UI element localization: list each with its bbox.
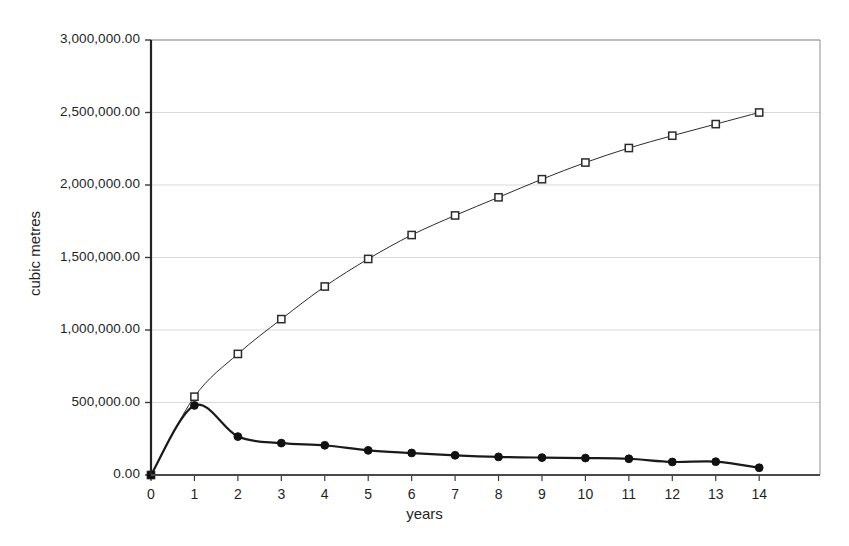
gridlines	[151, 40, 820, 403]
x-tick-label: 13	[696, 486, 736, 502]
x-tick-label: 10	[565, 486, 605, 502]
x-tick-label: 3	[261, 486, 301, 502]
x-tick-label: 11	[609, 486, 649, 502]
x-tick-label: 5	[348, 486, 388, 502]
x-tick-label: 8	[479, 486, 519, 502]
y-tick-label: 3,000,000.00	[60, 31, 140, 46]
x-tick-label: 12	[652, 486, 692, 502]
x-tick-label: 0	[131, 486, 171, 502]
x-tick-label: 4	[305, 486, 345, 502]
y-tick-label: 2,500,000.00	[60, 104, 140, 119]
data-series	[147, 109, 763, 479]
y-tick-label: 2,000,000.00	[60, 176, 140, 191]
x-tick-label: 9	[522, 486, 562, 502]
y-axis-title: cubic metres	[26, 174, 43, 334]
axis-ticks	[145, 40, 759, 481]
chart-canvas	[0, 0, 849, 546]
y-tick-label: 1,500,000.00	[60, 249, 140, 264]
y-tick-label: 500,000.00	[71, 394, 140, 409]
x-axis-title: years	[0, 505, 849, 522]
x-tick-label: 1	[174, 486, 214, 502]
x-tick-label: 14	[739, 486, 779, 502]
x-tick-label: 7	[435, 486, 475, 502]
y-tick-label: 1,000,000.00	[60, 321, 140, 336]
x-tick-label: 6	[392, 486, 432, 502]
y-tick-label: 0.00	[113, 466, 140, 481]
chart-container: 0.00500,000.001,000,000.001,500,000.002,…	[0, 0, 849, 546]
x-tick-label: 2	[218, 486, 258, 502]
